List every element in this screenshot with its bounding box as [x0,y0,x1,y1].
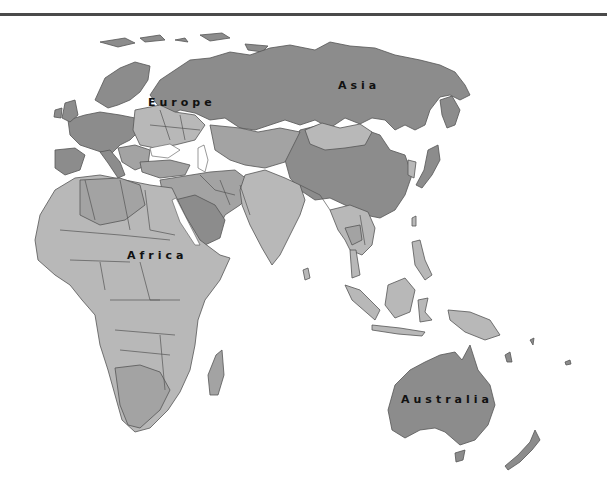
taiwan [412,216,416,226]
tasmania [455,450,465,462]
java [372,325,425,336]
iberia [55,148,85,175]
india [240,170,305,265]
label-asia: Asia [338,79,380,92]
sumatra [345,285,380,320]
world-map [0,0,607,485]
philippines [412,240,432,280]
arctic-islands [100,33,268,52]
malay-peninsula [350,250,360,278]
new-guinea [448,310,500,340]
kamchatka [440,96,460,128]
turkey [140,160,190,178]
sri-lanka [303,268,310,280]
label-africa: Africa [127,249,187,262]
japan [416,145,440,188]
new-zealand [505,430,540,470]
madagascar [208,350,224,395]
label-australia: Australia [401,393,493,406]
scandinavia [95,62,150,108]
sulawesi [418,298,432,322]
pacific-islands [505,338,571,365]
korea [408,160,416,178]
borneo [385,278,415,318]
label-europe: Europe [148,96,216,109]
caspian-sea [198,145,208,172]
asia-north [150,42,470,130]
